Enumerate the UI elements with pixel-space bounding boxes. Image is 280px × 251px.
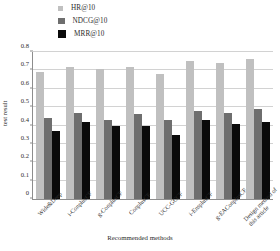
y-tick-label: 0.8 [21, 42, 29, 49]
x-tick-cell: i-ConplusCF [62, 200, 92, 234]
x-tick-cell: UCC-GCCF [153, 200, 183, 234]
y-tick-label: 0.7 [21, 60, 29, 67]
x-tick-cell: i-EnsplusCF [183, 200, 213, 234]
bar-ndcg [164, 120, 172, 199]
bar-ndcg [104, 120, 112, 199]
chart-legend: HR@10 NDCG@10 MRR@10 [58, 3, 107, 39]
bar-mrr [82, 122, 90, 199]
x-axis-tick-labels: Wide&Deepi-ConplusCFg-ConplusCFConplusCF… [32, 200, 273, 234]
legend-item-mrr: MRR@10 [58, 29, 107, 39]
bar-ndcg [224, 113, 232, 199]
x-tick-cell: ConplusCF [122, 200, 152, 234]
legend-swatch-mrr [58, 30, 66, 38]
bar-group [123, 52, 153, 199]
bar-chart-figure: HR@10 NDCG@10 MRR@10 test result 00.10.2… [0, 0, 280, 251]
x-axis-title: Recommended methods [0, 234, 280, 241]
bar-hr [186, 61, 194, 199]
bar-hr [126, 67, 134, 199]
bar-hr [36, 72, 44, 199]
x-tick-cell: g-EAConplusCF [213, 200, 243, 234]
bar-ndcg [44, 118, 52, 199]
bar-group [33, 52, 63, 199]
bar-mrr [262, 122, 270, 199]
x-tick-cell: g-ConplusCF [92, 200, 122, 234]
y-tick-label: 0.3 [21, 133, 29, 140]
legend-swatch-hr [58, 6, 63, 11]
y-tick-label: 0.2 [21, 152, 29, 159]
bar-group [243, 52, 273, 199]
y-tick-label: 0.4 [21, 115, 29, 122]
bar-group [153, 52, 183, 199]
bar-ndcg [74, 113, 82, 199]
bar-mrr [142, 126, 150, 200]
bar-hr [216, 63, 224, 199]
bar-ndcg [254, 109, 262, 199]
bar-mrr [232, 124, 240, 199]
legend-item-ndcg: NDCG@10 [58, 16, 107, 26]
bar-mrr [112, 126, 120, 200]
bar-group [93, 52, 123, 199]
bar-hr [246, 59, 254, 199]
bar-hr [66, 67, 74, 199]
bar-groups [33, 52, 273, 199]
bar-mrr [202, 120, 210, 199]
y-tick-label: 0.6 [21, 78, 29, 85]
legend-label-ndcg: NDCG@10 [73, 17, 108, 25]
x-tick-cell: Design method of this article [243, 200, 273, 234]
bar-ndcg [194, 111, 202, 199]
bar-hr [96, 69, 104, 199]
legend-item-hr: HR@10 [58, 3, 107, 13]
y-tick-label: 0 [26, 189, 29, 196]
legend-label-mrr: MRR@10 [74, 30, 104, 38]
x-tick-cell: Wide&Deep [32, 200, 62, 234]
y-tick-label: 0.5 [21, 97, 29, 104]
legend-swatch-ndcg [58, 18, 65, 25]
bar-mrr [52, 131, 60, 199]
bar-ndcg [134, 114, 142, 199]
y-axis-title: test result [1, 101, 8, 126]
bar-group [183, 52, 213, 199]
legend-label-hr: HR@10 [71, 4, 95, 12]
bar-group [63, 52, 93, 199]
plot-area: 00.10.20.30.40.50.60.70.8 [32, 52, 273, 200]
bar-group [213, 52, 243, 199]
y-tick-label: 0.1 [21, 170, 29, 177]
bar-hr [156, 74, 164, 199]
